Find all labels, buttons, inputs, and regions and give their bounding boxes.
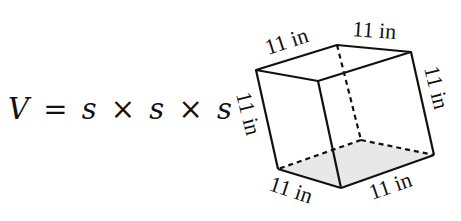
label-top-right-edge: 11 in <box>352 16 397 44</box>
cube-diagram: 11 in 11 in 11 in 11 in 11 in 11 in <box>0 0 461 221</box>
label-right-vertical-edge: 11 in <box>419 63 454 112</box>
